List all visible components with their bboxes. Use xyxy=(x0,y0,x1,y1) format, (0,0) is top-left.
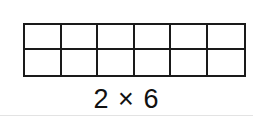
array-grid xyxy=(23,23,246,77)
grid-cell xyxy=(171,25,208,50)
grid-cell xyxy=(208,25,245,50)
divider xyxy=(0,115,253,116)
grid-cell xyxy=(208,50,245,75)
grid-cell xyxy=(62,25,99,50)
grid-cell xyxy=(25,25,62,50)
grid-cell xyxy=(135,25,172,50)
grid-cell xyxy=(135,50,172,75)
grid-cell xyxy=(171,50,208,75)
grid-cell xyxy=(98,50,135,75)
grid-cell xyxy=(25,50,62,75)
grid-cell xyxy=(62,50,99,75)
grid-cell xyxy=(98,25,135,50)
array-label: 2 × 6 xyxy=(0,84,253,115)
